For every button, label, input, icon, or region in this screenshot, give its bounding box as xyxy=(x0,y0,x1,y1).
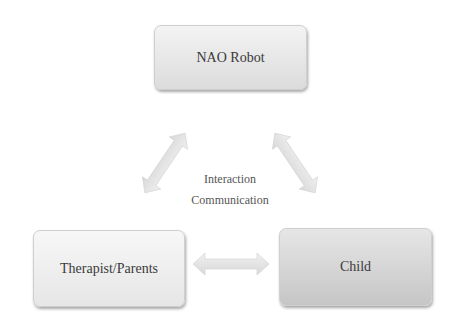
double-arrow-therapist-child xyxy=(193,253,269,275)
node-therapist-parents: Therapist/Parents xyxy=(33,230,185,307)
node-label: NAO Robot xyxy=(196,50,264,66)
node-label: Child xyxy=(340,259,371,275)
double-arrow-robot-child xyxy=(266,127,325,199)
node-nao-robot: NAO Robot xyxy=(154,25,307,90)
node-label: Therapist/Parents xyxy=(60,261,158,277)
edge-label-interaction: Interaction xyxy=(160,172,300,187)
node-child: Child xyxy=(279,228,432,306)
edge-label-communication: Communication xyxy=(160,193,300,208)
double-arrow-robot-therapist xyxy=(136,127,195,199)
